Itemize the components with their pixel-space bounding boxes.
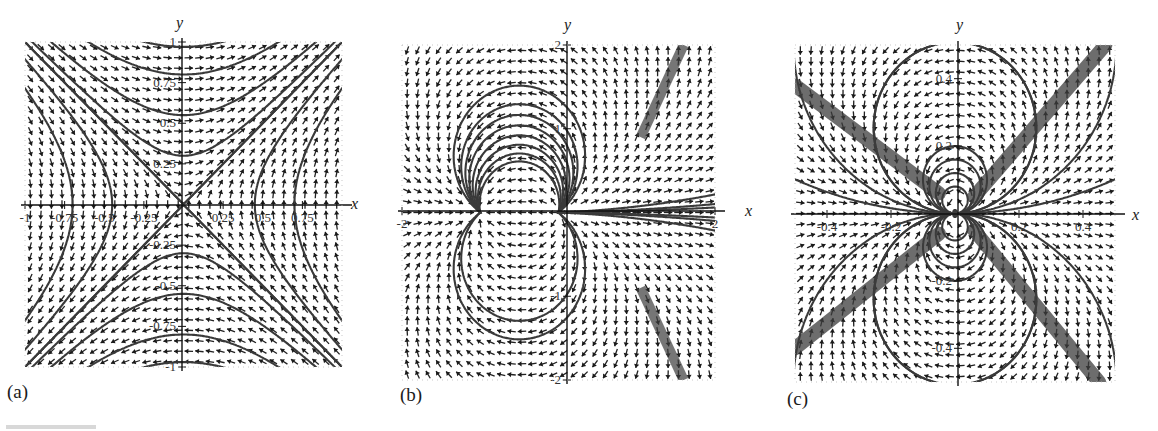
- x-tick-label: 0.4: [1075, 219, 1092, 234]
- axes: -0.4-0.20.20.40.40.2-0.2-0.4: [791, 41, 1125, 386]
- y-tick-label: 0.4: [936, 71, 953, 86]
- panel-label-c: (c): [787, 388, 808, 410]
- cropped-caption: [6, 425, 96, 429]
- x-tick-label: 0.2: [1011, 219, 1027, 234]
- x-tick-label: -0.2: [881, 219, 902, 234]
- y-tick-label: -0.4: [931, 340, 952, 355]
- x-tick-label: -0.4: [817, 219, 838, 234]
- panel-c: -0.4-0.20.20.40.40.2-0.2-0.4 y x (c): [0, 0, 1158, 431]
- y-tick-label: 0.2: [936, 138, 952, 153]
- y-tick-label: -0.2: [931, 273, 952, 288]
- vector-field-plot-c: -0.4-0.20.20.40.40.2-0.2-0.4: [0, 0, 1158, 431]
- y-axis-name: y: [956, 16, 963, 34]
- x-axis-name: x: [1132, 206, 1139, 224]
